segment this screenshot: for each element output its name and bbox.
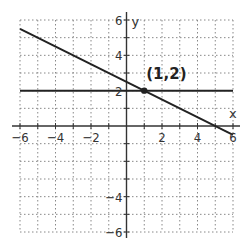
x-tick-label: −2 — [82, 130, 99, 145]
y-axis-label: y — [132, 14, 140, 29]
axes — [12, 12, 240, 238]
coordinate-plane: −6−4−2246642−4−6 x y (1,2) — [0, 0, 250, 241]
x-tick-label: −6 — [11, 130, 28, 145]
x-axis-label: x — [229, 106, 237, 121]
x-tick-label: 6 — [229, 130, 236, 145]
point-annotation: (1,2) — [146, 65, 186, 83]
intersection-point — [141, 87, 147, 93]
y-tick-label: 6 — [115, 13, 122, 28]
y-tick-label: −4 — [105, 190, 122, 205]
y-tick-label: 4 — [115, 48, 122, 63]
x-tick-label: 4 — [194, 130, 201, 145]
x-tick-label: −4 — [47, 130, 64, 145]
x-tick-label: 2 — [158, 130, 165, 145]
y-tick-label: −6 — [105, 225, 122, 240]
y-tick-label: 2 — [115, 84, 122, 99]
